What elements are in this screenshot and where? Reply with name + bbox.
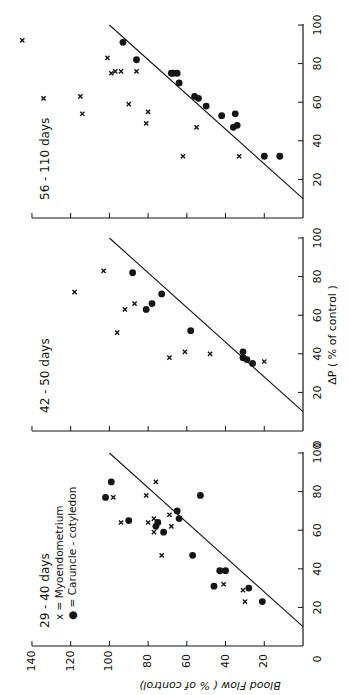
myoendometrium-point (78, 94, 82, 98)
delta-p-tick-label: 0 (311, 441, 324, 448)
delta-p-tick-label: 40 (311, 347, 324, 361)
delta-p-tick-label: 40 (311, 562, 324, 576)
caruncle-point (232, 110, 239, 117)
myoendometrium-point (72, 290, 76, 294)
myoendometrium-point (109, 71, 113, 75)
myoendometrium-point (146, 110, 150, 114)
caruncle-point (234, 122, 241, 129)
identity-line (109, 238, 303, 412)
myoendometrium-point (167, 513, 171, 517)
caruncle-point (174, 70, 181, 77)
myoendometrium-point (134, 69, 138, 73)
myoendometrium-point (146, 520, 150, 524)
rotated-scatter-figure: 02040608010029 - 40 days02040608010042 -… (0, 0, 348, 695)
caruncle-point (189, 552, 196, 559)
delta-p-tick-label: 20 (311, 385, 324, 399)
caruncle-point (240, 348, 247, 355)
caruncle-point (158, 291, 165, 298)
caruncle-point (216, 567, 223, 574)
myoendometrium-point (169, 524, 173, 528)
myoendometrium-point (237, 154, 241, 158)
myoendometrium-point (208, 352, 212, 356)
caruncle-point (222, 567, 229, 574)
delta-p-tick-label: 100 (311, 15, 324, 36)
myoendometrium-point (119, 69, 123, 73)
caruncle-point (243, 356, 250, 363)
caruncle-point (133, 56, 140, 63)
caruncle-point (197, 492, 204, 499)
myoendometrium-point (132, 302, 136, 306)
caruncle-point (211, 583, 218, 590)
delta-p-tick-label: 0 (311, 656, 324, 663)
myoendometrium-point (113, 69, 117, 73)
delta-p-tick-label: 60 (311, 95, 324, 109)
myoendometrium-point (243, 600, 247, 604)
caruncle-point (276, 153, 283, 160)
blood-flow-axis-title: Blood Flow ( % of control) (139, 679, 281, 692)
caruncle-point (249, 360, 256, 367)
caruncle-point (125, 517, 132, 524)
myoendometrium-point (41, 96, 45, 100)
myoendometrium-point (105, 56, 109, 60)
caruncle-point (129, 269, 136, 276)
caruncle-point (160, 529, 167, 536)
blood-flow-tick-labels: 20406080100120140 (25, 651, 270, 672)
identity-line (109, 453, 303, 627)
myoendometrium-point (101, 269, 105, 273)
panel-56-110days: 2040608010056 - 110 days (20, 15, 324, 219)
blood-flow-tick-label: 40 (219, 654, 232, 668)
myoendometrium-point (167, 356, 171, 360)
panel-title: 29 - 40 days (38, 553, 52, 628)
caruncle-point (102, 494, 109, 501)
myoendometrium-point (241, 588, 245, 592)
caruncle-point (152, 523, 159, 530)
blood-flow-tick-label: 100 (102, 651, 115, 672)
panel-title: 56 - 110 days (38, 118, 52, 200)
delta-p-tick-label: 20 (311, 172, 324, 186)
caruncle-point (120, 39, 127, 46)
myoendometrium-point (119, 520, 123, 524)
delta-p-tick-label: 60 (311, 308, 324, 322)
blood-flow-tick-label: 80 (141, 654, 154, 668)
myoendometrium-point (160, 553, 164, 557)
delta-p-tick-label: 60 (311, 523, 324, 537)
panel-42-50days: 02040608010042 - 50 days (32, 228, 324, 448)
caruncle-point (108, 479, 115, 486)
blood-flow-tick-label: 20 (257, 654, 270, 668)
myoendometrium-point (20, 38, 24, 42)
caruncle-point (176, 515, 183, 522)
caruncle-point (195, 95, 202, 102)
legend: x = Myoendometrium ● = Caruncle - cotyle… (53, 487, 78, 620)
myoendometrium-point (183, 350, 187, 354)
blood-flow-tick-label: 140 (25, 651, 38, 672)
myoendometrium-point (115, 330, 119, 334)
myoendometrium-point (127, 102, 131, 106)
delta-p-axis-title: ΔP ( % of control ) (326, 285, 339, 384)
caruncle-point (187, 327, 194, 334)
delta-p-tick-label: 100 (311, 228, 324, 249)
delta-p-tick-label: 40 (311, 134, 324, 148)
panel-title: 42 - 50 days (38, 338, 52, 413)
myoendometrium-point (123, 307, 127, 311)
myoendometrium-point (222, 582, 226, 586)
caruncle-point (143, 306, 150, 313)
myoendometrium-point (152, 530, 156, 534)
myoendometrium-point (80, 112, 84, 116)
caruncle-point (245, 585, 252, 592)
myoendometrium-point (194, 125, 198, 129)
caruncle-point (174, 508, 181, 515)
delta-p-tick-label: 80 (311, 485, 324, 499)
caruncle-point (259, 598, 266, 605)
myoendometrium-point (111, 495, 115, 499)
myoendometrium-point (144, 121, 148, 125)
legend-caruncle-cotyledon: ● = Caruncle - cotyledon (66, 487, 78, 620)
delta-p-tick-label: 80 (311, 57, 324, 71)
caruncle-point (149, 300, 156, 307)
myoendometrium-point (181, 154, 185, 158)
myoendometrium-point (144, 493, 148, 497)
myoendometrium-point (262, 359, 266, 363)
caruncle-point (176, 80, 183, 87)
myoendometrium-point (154, 480, 158, 484)
caruncle-point (203, 103, 210, 110)
caruncle-point (261, 153, 268, 160)
